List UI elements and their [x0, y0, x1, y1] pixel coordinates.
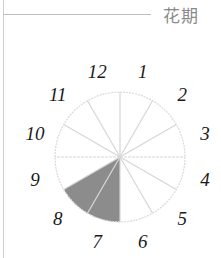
month-label-6: 6 [138, 231, 148, 252]
divider-line [120, 157, 153, 213]
month-label-5: 5 [177, 208, 187, 229]
month-label-7: 7 [92, 231, 103, 252]
month-label-4: 4 [200, 169, 210, 190]
month-label-9: 9 [30, 169, 40, 190]
flowering-period-dial: 123456789101112 [0, 0, 221, 258]
divider-line [88, 101, 121, 157]
divider-line [64, 125, 120, 158]
month-label-1: 1 [138, 61, 148, 82]
month-label-10: 10 [25, 123, 45, 144]
month-sectors [64, 157, 120, 222]
month-label-11: 11 [49, 84, 67, 105]
month-label-8: 8 [53, 208, 63, 229]
month-label-12: 12 [88, 61, 108, 82]
divider-line [120, 101, 153, 157]
divider-line [120, 157, 176, 190]
month-label-3: 3 [199, 123, 210, 144]
month-label-2: 2 [177, 84, 187, 105]
divider-line [120, 125, 176, 158]
